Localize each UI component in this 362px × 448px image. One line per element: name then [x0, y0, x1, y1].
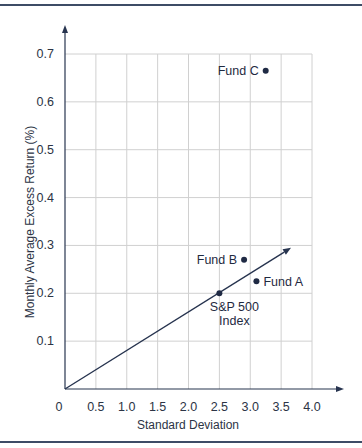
x-tick-label: 3.5 [272, 400, 289, 414]
y-axis-arrowhead [62, 25, 68, 33]
point-s-p-500-index [216, 290, 222, 296]
x-tick-label: 3.0 [242, 400, 259, 414]
point-fund-a [253, 278, 259, 284]
y-tick-label: 0.2 [37, 286, 54, 300]
x-tick-label: 0.5 [87, 400, 104, 414]
x-axis-title: Standard Deviation [137, 418, 239, 432]
point-fund-b [241, 257, 247, 263]
y-axis-title: Monthly Average Excess Return (%) [23, 126, 37, 319]
x-tick-label: 1.5 [149, 400, 166, 414]
label-s-p-500-index: Index [219, 314, 250, 328]
x-tick-label: 2.5 [211, 400, 228, 414]
axes [62, 25, 344, 392]
x-axis-arrowhead [336, 386, 344, 392]
y-tick-label: 0.4 [37, 191, 54, 205]
x-tick-labels: 00.51.01.52.02.53.03.54.0 [56, 400, 321, 414]
y-tick-label: 0.5 [37, 143, 54, 157]
y-tick-label: 0.3 [37, 238, 54, 252]
capital-market-line [65, 248, 291, 389]
label-fund-c: Fund C [218, 64, 259, 78]
label-fund-b: Fund B [197, 253, 237, 267]
x-tick-label: 4.0 [303, 400, 320, 414]
risk-return-chart: 00.51.01.52.02.53.03.54.0 0.10.20.30.40.… [0, 0, 362, 448]
y-tick-labels: 0.10.20.30.40.50.60.7 [37, 47, 54, 348]
point-fund-c [263, 68, 269, 74]
label-s-p-500-index: S&P 500 [210, 300, 259, 314]
x-tick-label: 2.0 [180, 400, 197, 414]
cml-line [65, 252, 284, 389]
y-tick-label: 0.1 [37, 334, 54, 348]
cml-arrowhead [283, 248, 291, 255]
grid [65, 54, 312, 389]
x-tick-label: 0 [56, 400, 63, 414]
x-tick-label: 1.0 [118, 400, 135, 414]
label-fund-a: Fund A [263, 275, 303, 289]
y-tick-label: 0.6 [37, 95, 54, 109]
y-tick-label: 0.7 [37, 47, 54, 61]
